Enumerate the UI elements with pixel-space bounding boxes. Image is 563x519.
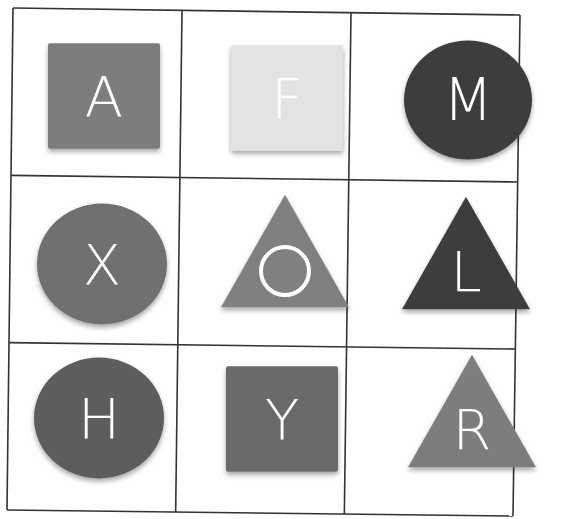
grid-canvas: AFMXLHYR <box>0 0 563 519</box>
grid-cell-l: L <box>402 197 530 310</box>
letter-label: A <box>85 64 123 129</box>
grid-shapes: AFMXLHYR <box>34 40 536 478</box>
grid-horizontal-line <box>13 8 520 15</box>
grid-horizontal-line <box>9 343 515 349</box>
letter-label: X <box>83 232 121 297</box>
letter-label: Y <box>265 387 299 452</box>
letter-label: M <box>443 66 493 134</box>
grid-horizontal-line <box>7 510 513 516</box>
letter-label: R <box>453 397 492 462</box>
letter-label: H <box>78 386 120 451</box>
grid-cell-m: M <box>404 40 532 159</box>
grid-cell-o <box>221 195 349 308</box>
grid-cell-f: F <box>231 45 343 150</box>
letter-label: L <box>450 239 481 304</box>
grid-cell-a: A <box>48 43 160 148</box>
triangle-shape <box>221 195 349 308</box>
grid-vertical-line <box>344 13 351 514</box>
grid-cell-y: Y <box>226 366 338 471</box>
grid-cell-h: H <box>34 358 164 479</box>
shape-letter-grid: AFMXLHYR <box>0 0 563 519</box>
grid-horizontal-line <box>11 175 518 182</box>
grid-vertical-line <box>176 10 182 512</box>
grid-vertical-line <box>7 8 13 510</box>
letter-label: F <box>271 66 303 131</box>
grid-cell-x: X <box>37 204 167 325</box>
grid-cell-r: R <box>408 355 536 468</box>
